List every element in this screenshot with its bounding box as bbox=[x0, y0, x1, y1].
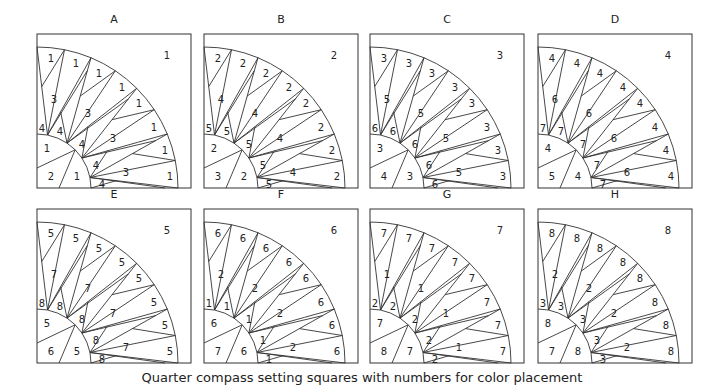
color-number-base: 1 bbox=[206, 298, 212, 309]
color-number-base: 3 bbox=[580, 314, 586, 325]
color-number-base: 1 bbox=[260, 335, 266, 346]
color-number-inner-corner: 3 bbox=[215, 171, 221, 182]
panel-label: H bbox=[611, 188, 619, 201]
color-number-base: 3 bbox=[558, 301, 564, 312]
color-number-outer: 5 bbox=[136, 273, 142, 284]
color-number-spike: 1 bbox=[418, 283, 424, 294]
color-number-outer: 2 bbox=[263, 68, 269, 79]
color-number-base: 2 bbox=[412, 314, 418, 325]
color-number-outer: 8 bbox=[668, 346, 674, 357]
color-number-spike: 5 bbox=[418, 108, 424, 119]
color-number-outer: 8 bbox=[663, 320, 669, 331]
color-number-base: 4 bbox=[93, 160, 99, 171]
color-number-base: 6 bbox=[412, 139, 418, 150]
color-number-outer: 2 bbox=[329, 145, 335, 156]
color-number-outer: 1 bbox=[167, 171, 173, 182]
color-number-inner-top: 2 bbox=[211, 143, 217, 154]
color-number-outer: 6 bbox=[286, 257, 292, 268]
color-number-corner: 5 bbox=[164, 225, 170, 236]
figure-caption: Quarter compass setting squares with num… bbox=[0, 370, 724, 385]
color-number-base: 1 bbox=[224, 301, 230, 312]
color-number-outer: 5 bbox=[96, 243, 102, 254]
color-number-outer: 6 bbox=[318, 297, 324, 308]
color-number-corner: 3 bbox=[497, 50, 503, 61]
color-number-spike: 1 bbox=[443, 308, 449, 319]
color-number-base: 7 bbox=[594, 160, 600, 171]
color-number-inner-right: 8 bbox=[575, 346, 581, 357]
color-number-spike: 5 bbox=[456, 167, 462, 178]
color-number-spike: 4 bbox=[218, 94, 224, 105]
color-number-outer: 4 bbox=[637, 98, 643, 109]
color-number-base: 8 bbox=[99, 354, 105, 365]
color-number-base: 6 bbox=[432, 179, 438, 190]
color-number-base: 8 bbox=[93, 335, 99, 346]
color-number-corner: 2 bbox=[331, 50, 337, 61]
color-number-outer: 7 bbox=[429, 243, 435, 254]
color-number-outer: 8 bbox=[652, 297, 658, 308]
color-number-spike: 4 bbox=[277, 133, 283, 144]
color-number-base: 7 bbox=[558, 126, 564, 137]
color-number-base: 8 bbox=[39, 298, 45, 309]
color-number-spike: 2 bbox=[586, 283, 592, 294]
color-number-outer: 6 bbox=[263, 243, 269, 254]
color-number-inner-top: 8 bbox=[545, 318, 551, 329]
color-number-base: 4 bbox=[99, 179, 105, 190]
panel-label: E bbox=[111, 188, 118, 201]
panel-d: D444444444666677777454 bbox=[538, 13, 692, 190]
color-number-spike: 7 bbox=[123, 342, 129, 353]
color-number-outer: 8 bbox=[637, 273, 643, 284]
color-number-outer: 1 bbox=[162, 145, 168, 156]
color-number-outer: 5 bbox=[162, 320, 168, 331]
color-number-spike: 4 bbox=[252, 108, 258, 119]
color-number-spike: 3 bbox=[51, 94, 57, 105]
color-number-spike: 7 bbox=[85, 283, 91, 294]
color-number-spike: 3 bbox=[123, 167, 129, 178]
color-number-outer: 5 bbox=[119, 257, 125, 268]
color-number-base: 3 bbox=[600, 354, 606, 365]
panel-a: A111111111333344444121 bbox=[37, 13, 191, 190]
color-number-outer: 7 bbox=[469, 273, 475, 284]
color-number-outer: 7 bbox=[406, 233, 412, 244]
color-number-outer: 4 bbox=[663, 145, 669, 156]
color-number-outer: 3 bbox=[495, 145, 501, 156]
color-number-outer: 8 bbox=[549, 228, 555, 239]
color-number-outer: 4 bbox=[574, 58, 580, 69]
color-number-spike: 3 bbox=[110, 133, 116, 144]
color-number-base: 5 bbox=[206, 123, 212, 134]
color-number-base: 5 bbox=[266, 179, 272, 190]
color-number-corner: 6 bbox=[331, 225, 337, 236]
color-number-inner-corner: 2 bbox=[48, 171, 54, 182]
color-number-base: 3 bbox=[540, 298, 546, 309]
color-number-outer: 8 bbox=[597, 243, 603, 254]
color-number-outer: 4 bbox=[549, 53, 555, 64]
color-number-outer: 2 bbox=[318, 122, 324, 133]
color-number-base: 6 bbox=[390, 126, 396, 137]
color-number-outer: 6 bbox=[215, 228, 221, 239]
color-number-spike: 2 bbox=[218, 269, 224, 280]
panel-e: E555555555777788888565 bbox=[37, 188, 191, 365]
color-number-inner-corner: 8 bbox=[381, 346, 387, 357]
panel-label: B bbox=[277, 13, 285, 26]
color-number-base: 2 bbox=[372, 298, 378, 309]
color-number-outer: 1 bbox=[151, 122, 157, 133]
color-number-inner-right: 7 bbox=[407, 346, 413, 357]
panel-label: A bbox=[110, 13, 118, 26]
color-number-base: 7 bbox=[600, 179, 606, 190]
color-number-base: 5 bbox=[260, 160, 266, 171]
color-number-corner: 1 bbox=[164, 50, 170, 61]
color-number-base: 4 bbox=[79, 139, 85, 150]
color-number-corner: 7 bbox=[497, 225, 503, 236]
color-number-outer: 4 bbox=[597, 68, 603, 79]
color-number-outer: 1 bbox=[48, 53, 54, 64]
color-number-corner: 4 bbox=[665, 50, 671, 61]
panel-label: F bbox=[278, 188, 284, 201]
color-number-base: 8 bbox=[57, 301, 63, 312]
color-number-base: 2 bbox=[432, 354, 438, 365]
color-number-outer: 6 bbox=[334, 346, 340, 357]
color-number-spike: 7 bbox=[110, 308, 116, 319]
color-number-spike: 3 bbox=[85, 108, 91, 119]
color-number-spike: 2 bbox=[290, 342, 296, 353]
panel-g: G777777777111122222787 bbox=[370, 188, 524, 365]
color-number-inner-corner: 5 bbox=[549, 171, 555, 182]
color-number-spike: 6 bbox=[552, 94, 558, 105]
